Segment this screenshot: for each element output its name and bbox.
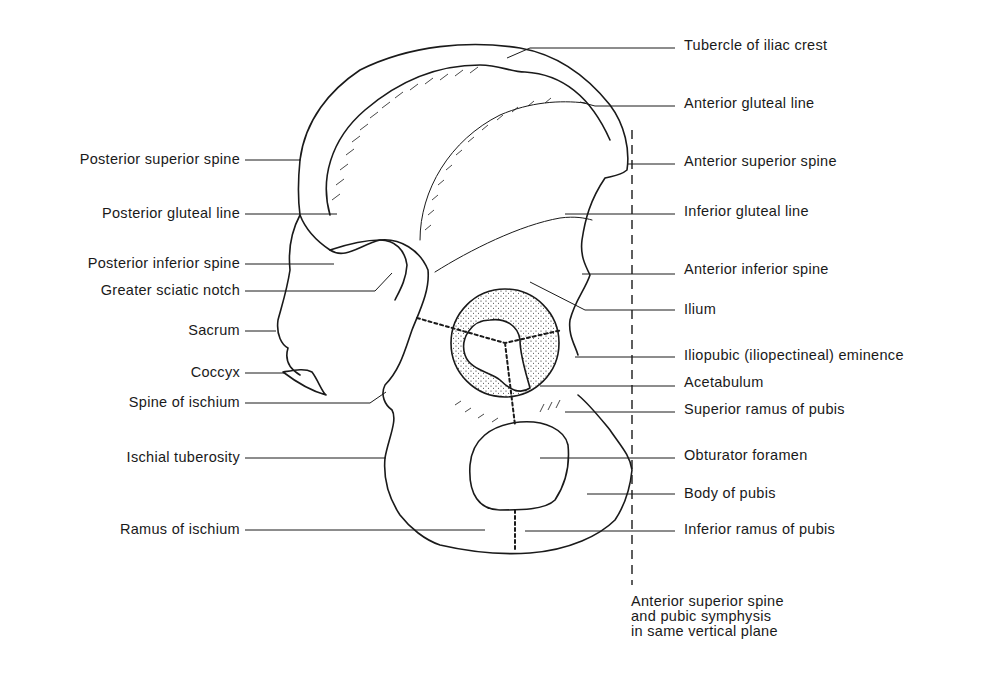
leader-lines-right — [507, 48, 675, 531]
vertical-plane-note: Anterior superior spine and pubic symphy… — [631, 594, 784, 639]
leader-lines-left — [245, 160, 485, 530]
label-inferior-ramus-of-pubis: Inferior ramus of pubis — [684, 521, 835, 538]
label-anterior-gluteal-line: Anterior gluteal line — [684, 95, 814, 112]
label-greater-sciatic-notch: Greater sciatic notch — [101, 282, 240, 299]
inferior-gluteal-line-path — [435, 217, 592, 272]
coccyx-outline — [283, 370, 326, 395]
hip-bone-drawing — [0, 0, 1003, 673]
label-ramus-of-ischium: Ramus of ischium — [120, 521, 240, 538]
label-iliopubic-eminence: Iliopubic (iliopectineal) eminence — [684, 347, 904, 364]
hip-bone-diagram: Posterior superior spine Posterior glute… — [0, 0, 1003, 673]
label-obturator-foramen: Obturator foramen — [684, 447, 808, 464]
anterior-gluteal-line-path — [420, 102, 585, 240]
label-coccyx: Coccyx — [191, 364, 240, 381]
label-posterior-gluteal-line: Posterior gluteal line — [102, 205, 240, 222]
obturator-foramen-outline — [470, 422, 569, 510]
label-anterior-inferior-spine: Anterior inferior spine — [684, 261, 829, 278]
label-posterior-inferior-spine: Posterior inferior spine — [88, 255, 240, 272]
label-spine-of-ischium: Spine of ischium — [129, 394, 240, 411]
sacrum-outline — [278, 215, 300, 375]
label-anterior-superior-spine: Anterior superior spine — [684, 153, 837, 170]
label-superior-ramus-of-pubis: Superior ramus of pubis — [684, 401, 845, 418]
label-tubercle-of-iliac-crest: Tubercle of iliac crest — [684, 37, 827, 54]
label-posterior-superior-spine: Posterior superior spine — [80, 151, 240, 168]
label-sacrum: Sacrum — [188, 322, 240, 339]
iliac-inner-rim — [326, 65, 610, 215]
label-inferior-gluteal-line: Inferior gluteal line — [684, 203, 809, 220]
label-body-of-pubis: Body of pubis — [684, 485, 776, 502]
label-ischial-tuberosity: Ischial tuberosity — [127, 449, 240, 466]
label-acetabulum: Acetabulum — [684, 374, 764, 391]
label-ilium: Ilium — [684, 301, 716, 318]
